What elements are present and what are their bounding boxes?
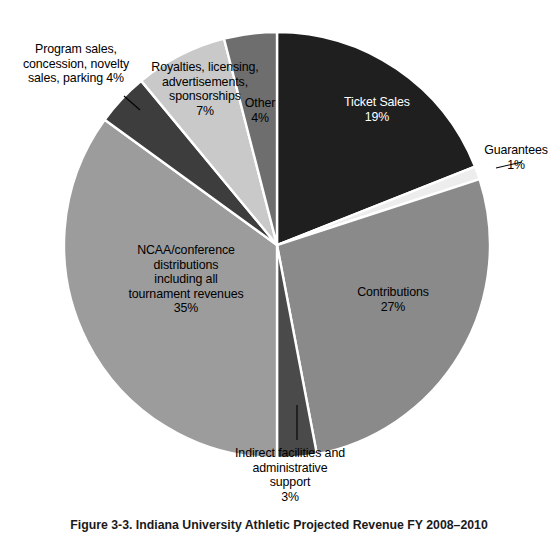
pie-slice-label-ticket-sales: Ticket Sales 19% [322, 95, 432, 124]
figure-caption: Figure 3-3. Indiana University Athletic … [0, 518, 558, 533]
pie-slice-label-other: Other 4% [232, 96, 288, 125]
pie-slice-label-contributions: Contributions 27% [338, 285, 448, 314]
pie-slice-label-guarantees: Guarantees 1% [474, 143, 558, 172]
pie-slice-label-program-sales: Program sales, concession, novelty sales… [8, 42, 144, 86]
pie-slice-label-indirect-facilities: Indirect facilities and administrative s… [200, 446, 380, 504]
pie-slice-label-ncaa-conference: NCAA/conference distributions including … [96, 243, 276, 316]
